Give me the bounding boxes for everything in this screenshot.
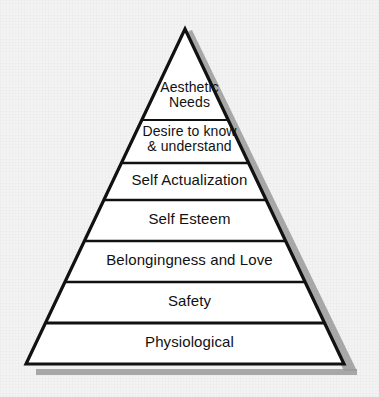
pyramid-body	[26, 29, 344, 364]
diagram-canvas: Aesthetic Needs Desire to know & underst…	[0, 0, 379, 397]
pyramid-shadow-base	[36, 369, 357, 375]
pyramid-graphic	[0, 0, 379, 397]
